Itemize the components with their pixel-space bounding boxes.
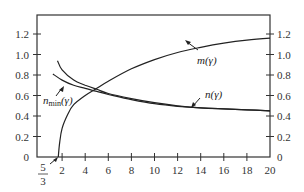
x-tick-label: 14 bbox=[195, 164, 207, 176]
y-tick-label: 0 bbox=[277, 151, 283, 163]
y-tick-label: 0.8 bbox=[277, 69, 291, 81]
y-tick-label: 1.2 bbox=[277, 28, 291, 40]
y-tick-label: 0.6 bbox=[277, 90, 291, 102]
x-tick-label: 4 bbox=[82, 164, 88, 176]
label-five: 5 bbox=[40, 161, 46, 173]
y-tick-label: 0.6 bbox=[15, 90, 29, 102]
y-tick-label: 1.0 bbox=[277, 49, 291, 61]
x-tick-label: 20 bbox=[265, 164, 277, 176]
annotation-nmin: nmin(γ) bbox=[43, 86, 73, 108]
x-tick-label: 2 bbox=[59, 164, 65, 176]
x-tick-label: 12 bbox=[172, 164, 183, 176]
y-tick-label: 0.2 bbox=[277, 131, 291, 143]
x-tick-label: 8 bbox=[129, 164, 135, 176]
label-m: m(γ) bbox=[197, 54, 217, 67]
label-nmin: nmin(γ) bbox=[43, 94, 73, 108]
y-tick-label: 0.4 bbox=[277, 110, 291, 122]
curves bbox=[53, 38, 270, 157]
plot-frame bbox=[37, 15, 270, 157]
annotation-m: m(γ) bbox=[185, 40, 217, 67]
y-tick-label: 0 bbox=[24, 151, 30, 163]
y-tick-label: 1.0 bbox=[15, 49, 29, 61]
label-three: 3 bbox=[40, 175, 46, 187]
annotation-five-thirds: 5 3 bbox=[38, 157, 58, 187]
chart: 00.20.40.60.81.01.2 00.20.40.60.81.01.2 … bbox=[0, 0, 304, 192]
y-tick-label: 0.4 bbox=[15, 110, 29, 122]
m-curve bbox=[58, 38, 270, 157]
y-tick-label: 1.2 bbox=[15, 28, 29, 40]
x-tick-label: 16 bbox=[218, 164, 230, 176]
nmin-curve bbox=[53, 74, 270, 111]
x-tick-label: 6 bbox=[106, 164, 112, 176]
x-tick-label: 18 bbox=[241, 164, 253, 176]
label-n: n(γ) bbox=[205, 88, 222, 101]
y-tick-label: 0.2 bbox=[15, 131, 29, 143]
x-tick-label: 10 bbox=[149, 164, 161, 176]
y-tick-label: 0.8 bbox=[15, 69, 29, 81]
n-curve bbox=[58, 61, 271, 111]
annotation-n: n(γ) bbox=[191, 88, 222, 108]
